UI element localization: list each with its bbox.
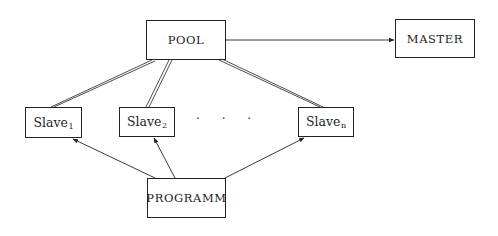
edge-programm-slave1 [73, 139, 155, 178]
node-slave-1-label: Slave1 [33, 115, 73, 131]
ellipsis: · · · [196, 112, 260, 126]
node-programm: PROGRAMM [147, 178, 226, 218]
node-slave-n: Slaven [298, 107, 354, 137]
node-pool: POOL [146, 20, 226, 60]
edge-pool-slave2 [146, 60, 172, 107]
edge-programm-slave2 [154, 138, 175, 178]
edge-programm-slaven [225, 138, 304, 178]
node-programm-label: PROGRAMM [146, 191, 226, 205]
node-master: MASTER [395, 19, 475, 58]
node-slave-1: Slave1 [25, 107, 82, 138]
edge-pool-slaven [219, 59, 323, 107]
diagram-canvas: POOL MASTER Slave1 Slave2 · · · Slaven P… [0, 0, 498, 236]
edge-pool-slave1 [51, 60, 155, 107]
node-master-label: MASTER [407, 32, 463, 46]
node-pool-label: POOL [168, 33, 205, 47]
node-slave-2: Slave2 [119, 107, 175, 137]
node-slave-2-label: Slave2 [127, 114, 167, 130]
node-slave-n-label: Slaven [306, 114, 346, 130]
